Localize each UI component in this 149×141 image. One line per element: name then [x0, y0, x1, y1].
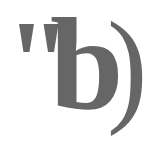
closing-parenthesis: ) — [107, 2, 147, 130]
